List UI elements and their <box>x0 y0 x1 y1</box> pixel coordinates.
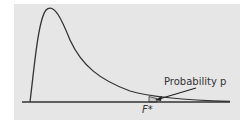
tail-area <box>149 97 157 103</box>
density-curve <box>30 8 230 102</box>
probability-label: Probability p <box>164 76 226 87</box>
pointer-arrow <box>159 88 196 99</box>
f-distribution-diagram <box>0 0 252 128</box>
critical-value-label: F* <box>142 104 153 115</box>
